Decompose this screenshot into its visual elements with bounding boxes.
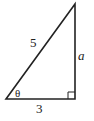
adjacent-side-label: 3 xyxy=(36,101,43,116)
right-angle-marker xyxy=(68,92,75,99)
right-triangle-diagram: 5 a θ 3 xyxy=(0,0,94,121)
triangle-outline xyxy=(6,4,75,99)
opposite-side-label: a xyxy=(78,48,85,63)
hypotenuse-label: 5 xyxy=(30,35,37,50)
angle-theta-label: θ xyxy=(15,87,20,99)
